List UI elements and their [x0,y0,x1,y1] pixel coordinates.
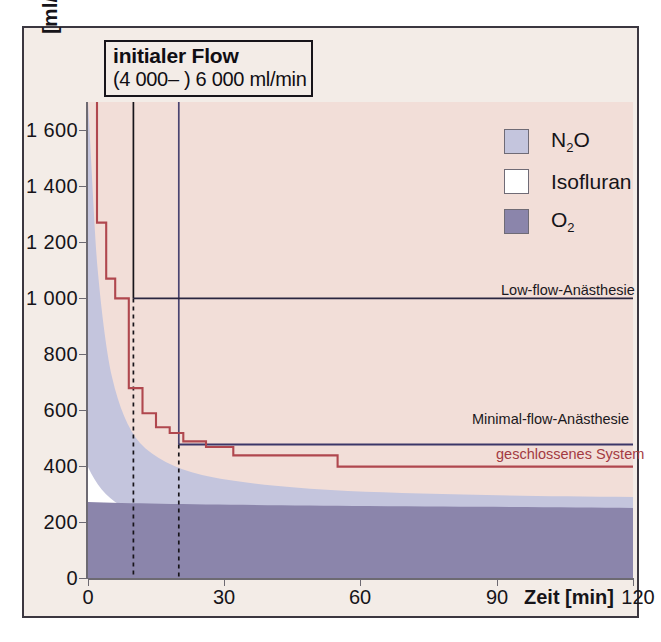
legend-swatch-o2 [504,209,529,234]
y-axis [86,102,88,579]
legend: N2O Isofluran O2 [504,128,632,249]
annotation-closed-system: geschlossenes System [496,446,644,462]
x-tick [497,578,498,586]
y-tick-label: 1 400 [8,175,78,198]
y-tick [79,298,86,299]
anesthesia-flow-chart: 0 200 400 600 800 1 000 1 200 1 400 1 60… [0,0,661,642]
y-tick-label: 800 [8,343,78,366]
y-tick-label: 200 [8,511,78,534]
annotation-minimal-flow: Minimal-flow-Anästhesie [472,411,629,427]
x-axis [88,578,634,580]
x-tick [360,578,361,586]
callout-title: initialer Flow [113,45,304,68]
legend-label-n2o: N2O [551,128,590,155]
legend-swatch-n2o [504,129,529,154]
y-tick [79,130,86,131]
x-tick-label: 60 [349,586,371,609]
y-tick-label: 1 000 [8,287,78,310]
x-tick-label: 0 [82,586,93,609]
y-tick-label: 0 [8,567,78,590]
x-tick [633,578,634,586]
x-tick [224,578,225,586]
y-tick [79,522,86,523]
y-tick [79,578,86,579]
y-tick-label: 1 600 [8,119,78,142]
y-tick [79,242,86,243]
x-tick [88,578,89,586]
x-axis-title: Zeit [min] [524,586,614,609]
y-tick-label: 600 [8,399,78,422]
legend-swatch-isofluran [504,169,529,194]
legend-item-n2o: N2O [504,128,632,155]
callout-subtitle: (4 000– ) 6 000 ml/min [113,68,304,90]
legend-item-o2: O2 [504,208,632,235]
y-tick [79,410,86,411]
legend-label-isofluran: Isofluran [551,170,632,194]
legend-item-isofluran: Isofluran [504,169,632,194]
y-tick [79,354,86,355]
y-tick-label: 1 200 [8,231,78,254]
initial-flow-callout: initialer Flow (4 000– ) 6 000 ml/min [104,40,313,97]
y-axis-title: [ml/min] [38,0,62,34]
legend-label-o2: O2 [551,208,575,235]
y-tick [79,186,86,187]
annotation-low-flow: Low-flow-Anästhesie [501,282,635,298]
x-tick-label: 120 [621,586,654,609]
x-tick-label: 90 [486,586,508,609]
x-tick-label: 30 [213,586,235,609]
y-tick-label: 400 [8,455,78,478]
area-o2 [88,502,633,579]
y-tick [79,466,86,467]
